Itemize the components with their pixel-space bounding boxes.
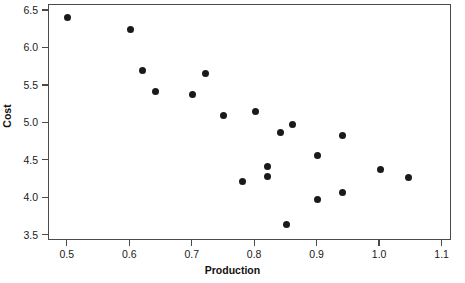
data-point [239,178,246,185]
y-axis-tick-label: 6.5 [23,5,38,16]
x-axis-tick [254,240,255,246]
data-point [405,174,412,181]
x-axis-tick-label: 0.7 [172,249,212,260]
x-axis-tick [316,240,317,246]
x-axis-tick-label: 0.6 [109,249,149,260]
x-axis-tick [66,240,67,246]
x-axis-tick [441,240,442,246]
y-axis-tick-label: 5.5 [23,80,38,91]
data-point [283,221,290,228]
x-axis-tick [191,240,192,246]
data-point [220,112,227,119]
data-point [152,88,159,95]
data-point [339,189,346,196]
data-point [339,132,346,139]
x-axis-tick-label: 0.8 [234,249,274,260]
x-axis-tick [129,240,130,246]
data-point [264,163,271,170]
y-axis-tick-label: 5.0 [23,117,38,128]
data-point [289,121,296,128]
data-point [127,26,134,33]
data-point [277,129,284,136]
y-axis-tick-label: 4.5 [23,155,38,166]
data-point [377,166,384,173]
y-axis-title: Cost [1,93,13,139]
data-points-layer [49,5,450,239]
x-axis-tick-label: 0.9 [297,249,337,260]
y-axis-tick-label: 3.5 [23,230,38,241]
data-point [202,70,209,77]
data-point [264,173,271,180]
data-point [252,108,259,115]
data-point [139,67,146,74]
scatter-plot-figure: 3.54.04.55.05.56.06.5 0.50.60.70.80.91.0… [0,0,465,283]
data-point [314,152,321,159]
data-point [314,196,321,203]
data-point [64,14,71,21]
plot-area [48,4,451,240]
data-point [189,91,196,98]
x-axis-tick-label: 0.5 [47,249,87,260]
y-axis-tick-label: 6.0 [23,42,38,53]
x-axis-tick-label: 1.0 [359,249,399,260]
y-axis-tick-label: 4.0 [23,192,38,203]
x-axis-title: Production [0,264,465,276]
x-axis-tick-label: 1.1 [422,249,462,260]
x-axis-tick [378,240,379,246]
